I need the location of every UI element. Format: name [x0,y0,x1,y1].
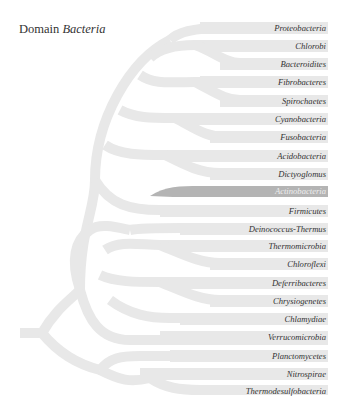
taxa-labels: Proteobacteria Chlorobi Bacteroidites Fi… [0,0,348,413]
taxon-label: Chlorobi [295,40,326,53]
taxon-label: Firmicutes [289,205,326,218]
taxon-label: Acidobacteria [277,150,326,163]
taxon-label: Verrucomicrobia [268,331,326,344]
taxon-label: Bacteroidites [280,58,326,71]
taxon-label: Deferribacteres [272,277,326,290]
taxon-label: Thermodesulfobacteria [246,385,326,398]
taxon-label: Nitrospirae [287,368,326,381]
taxon-label: Deinococcus-Thermus [249,223,326,236]
taxon-label: Proteobacteria [274,22,326,35]
taxon-label: Chrysiogenetes [273,295,326,308]
taxon-label: Fibrobacteres [278,76,326,89]
taxon-label: Chlamydiae [284,313,326,326]
taxon-label: Cyanobacteria [275,113,326,126]
taxon-label: Chloroflexi [287,258,326,271]
taxon-label: Planctomycetes [272,350,326,363]
taxon-label: Fusobacteria [280,131,326,144]
taxon-label-highlighted: Actinobacteria [275,185,326,198]
taxon-label: Spirochaetes [282,95,326,108]
taxon-label: Thermomicrobia [269,240,326,253]
taxon-label: Dictyoglomus [278,168,326,181]
